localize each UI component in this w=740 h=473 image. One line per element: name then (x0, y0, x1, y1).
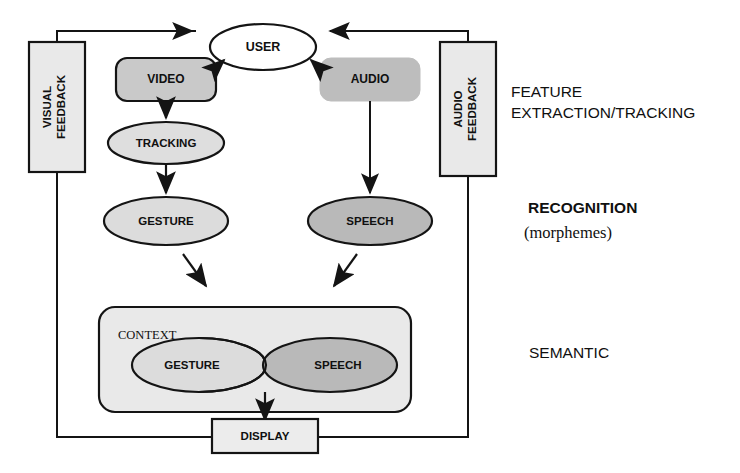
audio-feedback-label-line1: AUDIO (452, 90, 464, 127)
context-gesture-label: GESTURE (164, 359, 220, 371)
audio-label: AUDIO (351, 72, 390, 86)
visual-feedback-to-user-line (57, 31, 196, 42)
user-label: USER (246, 40, 281, 54)
audio-feedback-label-line2: FEEDBACK (466, 76, 478, 141)
node-audio-feedback[interactable]: AUDIO FEEDBACK (440, 42, 496, 176)
node-visual-feedback[interactable]: VISUAL FEEDBACK (29, 42, 85, 172)
node-tracking[interactable]: TRACKING (108, 122, 224, 164)
feature-extraction-line2: EXTRACTION/TRACKING (511, 104, 695, 121)
visual-feedback-label-line2: FEEDBACK (55, 74, 67, 139)
speech-to-context-arrow (334, 254, 357, 286)
stage-label-recognition: RECOGNITION (morphemes) (524, 199, 637, 242)
node-user[interactable]: USER (210, 24, 316, 70)
node-speech-recognition[interactable]: SPEECH (308, 197, 432, 245)
semantic-line1: SEMANTIC (529, 344, 609, 361)
gesture-label: GESTURE (138, 215, 194, 227)
stage-label-feature-extraction: FEATURE EXTRACTION/TRACKING (511, 83, 695, 121)
node-context[interactable]: CONTEXT GESTURE SPEECH (99, 307, 411, 412)
audio-feedback-to-user-arrow (330, 31, 468, 42)
recognition-line1: RECOGNITION (528, 199, 637, 216)
node-audio[interactable]: AUDIO (320, 58, 420, 101)
context-speech-label: SPEECH (314, 359, 361, 371)
stage-label-semantic: SEMANTIC (529, 344, 609, 361)
diagram-canvas: USER VIDEO AUDIO VISUAL FEEDBACK AUDIO (0, 0, 740, 473)
video-label: VIDEO (147, 72, 184, 86)
feature-extraction-line1: FEATURE (511, 83, 582, 100)
visual-feedback-label-line1: VISUAL (41, 86, 53, 128)
visual-feedback-to-user-arrow (57, 31, 192, 42)
gesture-to-context-arrow (183, 254, 206, 286)
display-label: DISPLAY (241, 430, 290, 442)
node-video[interactable]: VIDEO (116, 58, 216, 101)
node-gesture-recognition[interactable]: GESTURE (104, 197, 228, 245)
node-display[interactable]: DISPLAY (212, 419, 318, 453)
tracking-label: TRACKING (136, 137, 197, 149)
recognition-line2: (morphemes) (524, 223, 612, 242)
architecture-diagram: USER VIDEO AUDIO VISUAL FEEDBACK AUDIO (0, 0, 740, 473)
speech-label: SPEECH (346, 215, 393, 227)
